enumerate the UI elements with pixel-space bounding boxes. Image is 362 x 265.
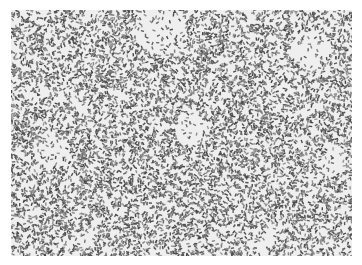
micrograph-frame — [0, 0, 362, 265]
histology-micrograph — [11, 10, 352, 256]
